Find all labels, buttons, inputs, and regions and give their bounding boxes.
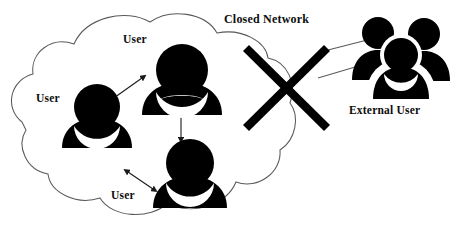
label-user-left: User — [36, 92, 60, 104]
barrier-x-icon — [243, 45, 330, 131]
label-user-bottom: User — [111, 189, 135, 201]
external-person-front-head — [384, 38, 418, 72]
diagram-illustration — [0, 0, 469, 238]
user-bottom-icon — [153, 139, 227, 208]
label-external-user: External User — [349, 104, 420, 116]
arrow-user-left-to-user-bottom — [128, 172, 153, 189]
diagram-canvas: User User User Closed Network External U… — [0, 0, 469, 238]
user-left-icon — [62, 84, 132, 149]
external-user-group-icon — [352, 17, 450, 99]
user-top-icon — [142, 44, 222, 118]
label-closed-network: Closed Network — [224, 12, 309, 27]
label-user-top: User — [123, 33, 147, 45]
